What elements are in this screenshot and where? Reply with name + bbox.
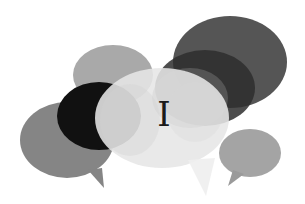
center-letter: I — [150, 96, 178, 132]
speech-bubble-right-small-icon — [219, 129, 281, 186]
speech-bubbles-illustration: I — [0, 0, 305, 204]
